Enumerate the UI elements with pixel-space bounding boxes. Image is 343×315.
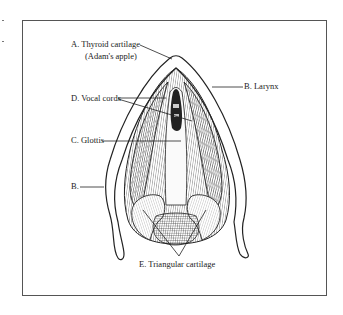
label-glottis: C. Glottis (71, 136, 104, 145)
label-vocal-cords: D. Vocal cords (71, 94, 121, 103)
label-larynx: B. Larynx (244, 82, 278, 91)
label-triangular-cartilage: E. Triangular cartilage (139, 260, 215, 269)
vocal-highlight (173, 104, 179, 108)
label-adams-apple: (Adam's apple) (85, 52, 137, 61)
posterior-commissure (153, 213, 199, 245)
label-thyroid-cartilage: A. Thyroid cartilage (71, 40, 140, 49)
leader-thyroid (140, 45, 172, 59)
label-b: B. (71, 182, 79, 191)
